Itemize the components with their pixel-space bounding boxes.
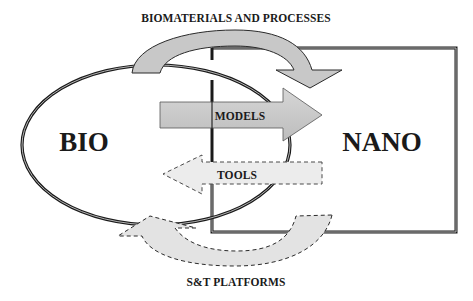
models-label: MODELS [215,110,265,122]
biomaterials-arrow [132,30,342,88]
st-platforms-arrow [118,215,332,266]
nano-label: NANO [342,127,422,157]
st-platforms-label: S&T PLATFORMS [187,276,286,288]
bio-nano-diagram: BIOMATERIALS AND PROCESSES MODELS TOOLS … [0,0,473,301]
bio-label: BIO [59,127,109,157]
tools-label: TOOLS [217,169,257,181]
biomaterials-label: BIOMATERIALS AND PROCESSES [141,12,331,24]
